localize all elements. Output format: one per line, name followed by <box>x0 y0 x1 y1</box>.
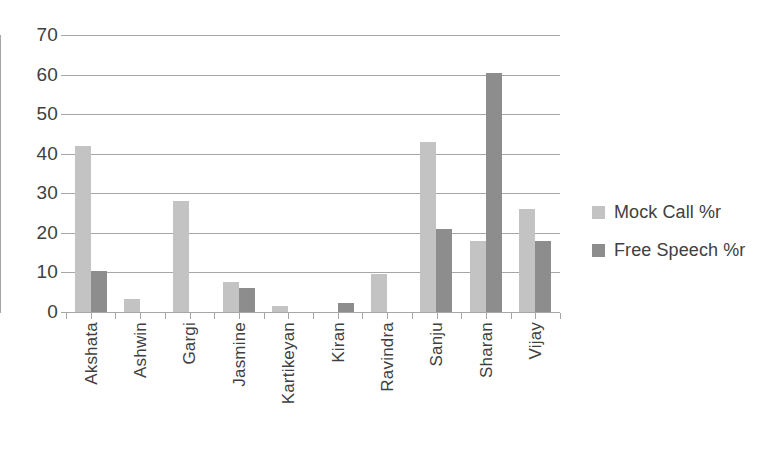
y-axis-tick-label: 20 <box>14 223 58 242</box>
x-axis-label-slot: Ashwin <box>115 318 164 443</box>
legend-color-swatch <box>592 244 605 257</box>
bar <box>223 282 239 312</box>
y-axis-tick-label: 10 <box>14 262 58 281</box>
x-axis-category-label: Gargi <box>181 322 198 365</box>
x-axis-label-slot: Akshata <box>66 318 115 443</box>
x-axis-category-label: Sanju <box>428 322 445 366</box>
bar <box>239 288 255 312</box>
y-axis-tick-label: 70 <box>14 25 58 44</box>
y-axis-tick-label: 30 <box>14 183 58 202</box>
bar <box>173 201 189 312</box>
legend-item[interactable]: Free Speech %r <box>592 231 763 269</box>
bar <box>272 306 288 312</box>
x-axis-label-slot: Kartikeyan <box>264 318 313 443</box>
y-axis-line <box>0 35 1 313</box>
bar <box>371 274 387 312</box>
bar-group <box>165 35 214 312</box>
bar <box>535 241 551 312</box>
bar <box>436 229 452 312</box>
bar-group <box>412 35 461 312</box>
bar-group <box>66 35 115 312</box>
x-axis-tick <box>560 313 561 319</box>
legend-label: Mock Call %r <box>614 203 721 221</box>
legend-label: Free Speech %r <box>614 241 745 259</box>
x-axis-category-label: Jasmine <box>230 322 247 387</box>
x-axis-category-label: Akshata <box>82 322 99 385</box>
x-axis-label-slot: Jasmine <box>214 318 263 443</box>
x-axis-label-slot: Sanju <box>412 318 461 443</box>
x-axis-label-slot: Kiran <box>313 318 362 443</box>
x-axis-category-labels: AkshataAshwinGargiJasmineKartikeyanKiran… <box>66 318 560 443</box>
bar-group <box>115 35 164 312</box>
x-axis-category-label: Ashwin <box>132 322 149 378</box>
bar <box>124 299 140 312</box>
x-axis-category-label: Sharan <box>477 322 494 378</box>
bar-group <box>313 35 362 312</box>
bar-group <box>264 35 313 312</box>
bar <box>420 142 436 312</box>
x-axis-category-label: Kiran <box>329 322 346 363</box>
bar-group <box>461 35 510 312</box>
bar <box>470 241 486 312</box>
legend-item[interactable]: Mock Call %r <box>592 193 763 231</box>
x-axis-category-label: Vijay <box>527 322 544 360</box>
x-axis-category-label: Ravindra <box>379 322 396 392</box>
bar <box>338 303 354 312</box>
y-axis-tick-labels: 010203040506070 <box>0 0 58 449</box>
bar <box>75 146 91 312</box>
y-axis-tick-label: 40 <box>14 144 58 163</box>
x-axis-label-slot: Gargi <box>165 318 214 443</box>
bar <box>486 73 502 312</box>
bar <box>91 271 107 312</box>
legend-color-swatch <box>592 206 605 219</box>
x-axis-label-slot: Vijay <box>511 318 560 443</box>
bar-group <box>362 35 411 312</box>
y-axis-tick-label: 50 <box>14 104 58 123</box>
bar-group <box>511 35 560 312</box>
x-axis-label-slot: Ravindra <box>362 318 411 443</box>
y-axis-tick-label: 60 <box>14 65 58 84</box>
x-axis-category-label: Kartikeyan <box>280 322 297 404</box>
bar <box>519 209 535 312</box>
x-axis-label-slot: Sharan <box>461 318 510 443</box>
y-axis-tick-label: 0 <box>14 302 58 321</box>
bar-group <box>214 35 263 312</box>
chart-legend: Mock Call %rFree Speech %r <box>592 193 763 269</box>
bar-chart: 010203040506070 AkshataAshwinGargiJasmin… <box>0 0 763 449</box>
plot-area <box>66 35 560 312</box>
